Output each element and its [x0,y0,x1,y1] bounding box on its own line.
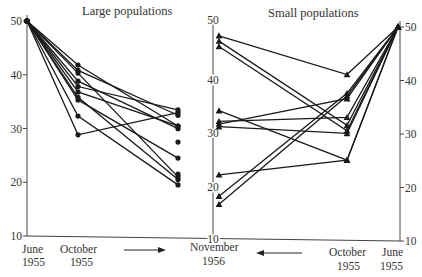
circle-marker-icon [75,70,80,75]
small-population-line [219,27,398,175]
circle-marker-icon [175,110,180,115]
large-population-line [27,21,178,158]
circle-marker-icon [175,182,180,187]
right-axis-tick-label: 20 [405,182,417,194]
circle-marker-icon [175,139,180,144]
x-label-left-october-year: 1955 [70,256,93,268]
arrow-left-icon [256,250,302,256]
right-axis-tick-label: 50 [405,21,417,33]
circle-marker-icon [75,62,80,67]
x-label-left-june-month: June [22,243,43,255]
axes: 102030405010203040501020304050 [11,14,417,247]
right-axis-tick-label: 30 [405,128,417,140]
left-axis-tick-label: 30 [11,123,23,135]
small-population-line [219,27,398,125]
x-label-right-june-year: 1955 [380,260,403,272]
x-label-november-year: 1956 [202,255,225,267]
triangle-marker-icon [216,107,223,113]
triangle-marker-icon [216,32,223,38]
circle-marker-icon [75,132,80,137]
large-population-line [27,21,178,110]
large-population-line [27,21,178,177]
large-population-line [27,21,178,126]
circle-marker-icon [75,113,80,118]
population-chart: 102030405010203040501020304050 Large pop… [0,0,422,277]
circle-marker-icon [75,79,80,84]
right-axis-tick-label: 40 [405,75,417,87]
left-axis-tick-label: 40 [11,69,23,81]
circle-marker-icon [75,97,80,102]
small-populations-title: Small populations [268,6,359,20]
x-label-november-month: November [190,241,239,253]
x-label-left-june-year: 1955 [22,256,45,268]
left-axis-tick-label: 20 [11,176,23,188]
middle-axis-tick-label: 50 [207,14,219,26]
circle-marker-icon [175,156,180,161]
x-label-right-october-month: October [329,246,366,258]
small-population-line [219,27,398,75]
middle-axis-tick-label: 20 [207,181,219,193]
x-label-right-june-month: June [382,246,403,258]
middle-axis-tick-label: 40 [207,74,219,86]
small-population-line [219,27,398,204]
left-axis-tick-label: 10 [11,230,23,242]
small-population-line [219,27,398,121]
circle-marker-icon [75,84,80,89]
triangle-marker-icon [216,38,223,44]
small-population-line [219,27,398,160]
right-axis-tick-label: 10 [405,235,417,247]
x-label-left-october-month: October [60,243,97,255]
left-axis-tick-label: 50 [11,15,23,27]
large-population-line [27,21,178,126]
circle-marker-icon [175,123,180,128]
large-population-line [27,21,178,115]
x-label-right-october-year: 1955 [337,260,360,272]
arrow-right-icon [124,247,166,253]
circle-marker-icon [75,89,80,94]
circle-marker-icon [175,172,180,177]
triangle-marker-icon [216,43,223,49]
circle-marker-icon [175,177,180,182]
large-populations-title: Large populations [82,4,173,18]
circle-marker-icon [24,18,29,23]
